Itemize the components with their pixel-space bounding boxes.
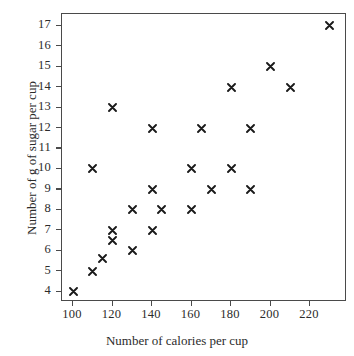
data-point: [69, 287, 78, 296]
y-tick-mark: [56, 229, 61, 230]
data-point: [187, 164, 196, 173]
y-tick-mark: [56, 250, 61, 251]
data-point: [187, 205, 196, 214]
data-point: [286, 83, 295, 92]
data-point: [227, 164, 236, 173]
y-tick-mark: [56, 107, 61, 108]
y-axis-title: Number of g of sugar per cup: [24, 18, 40, 298]
y-tick-mark: [56, 45, 61, 46]
data-point: [108, 236, 117, 245]
y-tick-mark: [56, 127, 61, 128]
x-tick-label: 180: [210, 308, 250, 321]
data-point: [266, 62, 275, 71]
data-point: [157, 205, 166, 214]
data-point: [207, 185, 216, 194]
data-point: [246, 124, 255, 133]
data-point: [148, 226, 157, 235]
y-tick-mark: [56, 209, 61, 210]
data-point: [325, 21, 334, 30]
data-point: [227, 83, 236, 92]
y-tick-mark: [56, 188, 61, 189]
y-tick-mark: [56, 86, 61, 87]
data-point: [148, 124, 157, 133]
x-tick-label: 120: [92, 308, 132, 321]
y-tick-mark: [56, 66, 61, 67]
x-tick-mark: [309, 301, 310, 306]
data-point: [246, 185, 255, 194]
x-tick-mark: [151, 301, 152, 306]
x-tick-label: 140: [131, 308, 171, 321]
y-tick-mark: [56, 25, 61, 26]
scatter-plot-figure: 100120140160180200220 456789101112131415…: [0, 0, 354, 356]
data-point: [128, 246, 137, 255]
data-point: [108, 103, 117, 112]
data-point: [108, 226, 117, 235]
x-axis-title: Number of calories per cup: [0, 333, 354, 349]
x-tick-mark: [112, 301, 113, 306]
plot-area: [61, 13, 346, 301]
x-tick-label: 200: [250, 308, 290, 321]
x-tick-mark: [270, 301, 271, 306]
x-tick-mark: [72, 301, 73, 306]
y-tick-mark: [56, 270, 61, 271]
x-tick-label: 220: [289, 308, 329, 321]
data-point: [197, 124, 206, 133]
x-tick-mark: [191, 301, 192, 306]
data-point: [128, 205, 137, 214]
data-point: [98, 254, 107, 263]
y-tick-mark: [56, 291, 61, 292]
x-tick-label: 160: [171, 308, 211, 321]
data-point: [88, 164, 97, 173]
x-tick-mark: [230, 301, 231, 306]
y-tick-mark: [56, 147, 61, 148]
data-point: [88, 267, 97, 276]
data-point: [148, 185, 157, 194]
y-tick-mark: [56, 168, 61, 169]
x-tick-label: 100: [52, 308, 92, 321]
